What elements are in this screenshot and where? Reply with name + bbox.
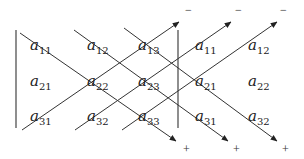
entry-repeat-a12: a12 <box>248 36 270 56</box>
entry-a32: a32 <box>87 107 109 127</box>
entry-a31: a31 <box>30 107 52 127</box>
entry-a23: a23 <box>138 72 160 92</box>
entry-a33: a33 <box>138 107 160 127</box>
sarrus-diagram: a11 a12 a13 a11 a12 a21 a22 a23 a21 a22 … <box>0 0 304 159</box>
entry-repeat-a32: a32 <box>248 107 270 127</box>
diagonal-arrow-up-1 <box>22 22 179 130</box>
negative-diagonals <box>22 22 277 130</box>
minus-sign-3: − <box>280 3 287 17</box>
entry-a22: a22 <box>87 72 109 92</box>
minus-sign-2: − <box>235 3 242 17</box>
entry-a13: a13 <box>138 36 160 56</box>
entry-repeat-a22: a22 <box>248 72 270 92</box>
plus-sign-2: + <box>233 142 240 156</box>
minus-sign-1: − <box>185 3 192 17</box>
diagonal-arrow-up-2 <box>75 22 231 130</box>
plus-sign-3: + <box>282 142 289 156</box>
entry-a11: a11 <box>30 36 52 56</box>
plus-sign-1: + <box>183 142 190 156</box>
entry-repeat-a21: a21 <box>195 72 217 92</box>
entry-a21: a21 <box>30 72 52 92</box>
entry-repeat-a31: a31 <box>195 107 217 127</box>
entry-a12: a12 <box>87 36 109 56</box>
